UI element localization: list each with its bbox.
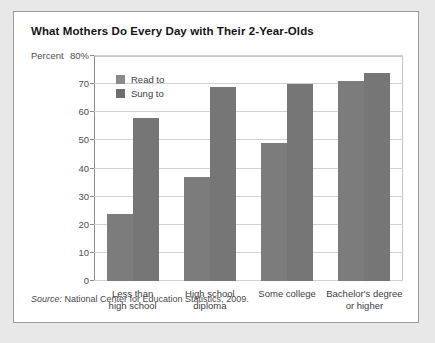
bar-read-to [184, 177, 210, 281]
plot-area: 01020304050607080% Less thanhigh schoolH… [94, 56, 403, 281]
legend-label-sung-to: Sung to [131, 88, 164, 99]
y-axis-tick-label-60: 60 [78, 106, 89, 117]
bar-read-to [107, 214, 133, 282]
legend-swatch-sung-to-icon [116, 89, 125, 98]
figure-frame: What Mothers Do Every Day with Their 2-Y… [13, 11, 419, 323]
bar-sung-to [210, 87, 236, 281]
legend-item-sung-to: Sung to [116, 86, 164, 100]
bars [326, 56, 403, 281]
y-axis-tick-label-80: 80% [70, 50, 89, 61]
y-axis-tick-label-30: 30 [78, 190, 89, 201]
bar-read-to [338, 81, 364, 281]
y-axis-tick-label-10: 10 [78, 246, 89, 257]
legend-swatch-read-to-icon [116, 75, 125, 84]
x-axis-category-label: Some college [258, 288, 316, 300]
percent-label: Percent [31, 50, 64, 61]
y-axis-tick-label-50: 50 [78, 134, 89, 145]
y-axis-tick-label-20: 20 [78, 218, 89, 229]
x-axis-category-label-line: Bachelor's degree [326, 288, 402, 300]
source-text: National Center for Education Statistics… [65, 294, 249, 304]
bar-group: High schooldiploma [171, 56, 248, 281]
bar-sung-to [364, 73, 390, 281]
x-axis-category-label-line: or higher [326, 300, 402, 312]
y-axis-tick-label-0: 0 [84, 275, 89, 286]
bars [171, 56, 248, 281]
y-axis-tick-label-70: 70 [78, 78, 89, 89]
x-axis-category-label: Bachelor's degreeor higher [326, 288, 402, 312]
bar-group: Some college [249, 56, 326, 281]
page-title: What Mothers Do Every Day with Their 2-Y… [31, 25, 314, 37]
bar-sung-to [287, 84, 313, 281]
y-axis-tick-label-40: 40 [78, 162, 89, 173]
y-axis-unit-label: Percent [31, 50, 64, 61]
bar-read-to [261, 143, 287, 281]
bars [249, 56, 326, 281]
x-axis-category-label-line: Some college [258, 288, 316, 300]
bar-sung-to [133, 118, 159, 281]
legend: Read to Sung to [116, 72, 164, 100]
bar-group: Bachelor's degreeor higher [326, 56, 403, 281]
source-prefix: Source: [31, 294, 62, 304]
source-note: Source: National Center for Education St… [31, 294, 249, 304]
legend-label-read-to: Read to [131, 74, 164, 85]
legend-item-read-to: Read to [116, 72, 164, 86]
